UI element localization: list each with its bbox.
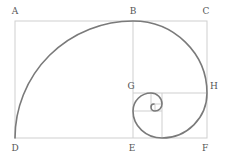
label-h: H	[210, 81, 218, 91]
golden-spiral-diagram: A B C D E F G H	[0, 0, 228, 162]
label-e: E	[129, 143, 136, 153]
label-f: F	[202, 143, 208, 153]
outer-rectangle	[15, 21, 207, 138]
label-g: G	[127, 81, 134, 91]
label-a: A	[11, 6, 19, 16]
label-d: D	[11, 143, 18, 153]
golden-spiral	[15, 21, 207, 138]
label-c: C	[203, 6, 210, 16]
label-b: B	[130, 6, 137, 16]
